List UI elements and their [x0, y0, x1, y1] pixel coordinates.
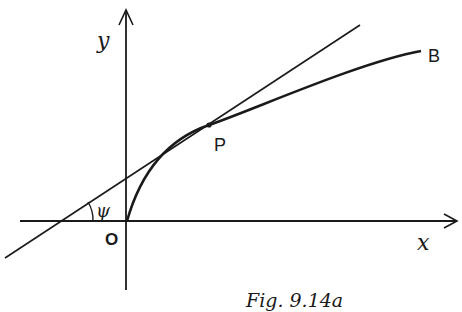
- tangent-diagram: y x O P B ψ Fig. 9.14a: [0, 0, 462, 312]
- origin-label: O: [105, 230, 118, 249]
- angle-arc: [88, 202, 93, 221]
- point-P-marker: [206, 122, 211, 127]
- point-B-label: B: [428, 46, 440, 66]
- point-P-label: P: [214, 135, 226, 155]
- y-axis: [119, 10, 133, 290]
- y-axis-label: y: [96, 28, 110, 53]
- angle-psi-label: ψ: [96, 200, 111, 221]
- tangent-line: [5, 25, 360, 258]
- figure-caption: Fig. 9.14a: [245, 289, 343, 311]
- x-axis: [20, 214, 457, 228]
- curve-OPB: [127, 51, 421, 221]
- x-axis-label: x: [417, 230, 430, 255]
